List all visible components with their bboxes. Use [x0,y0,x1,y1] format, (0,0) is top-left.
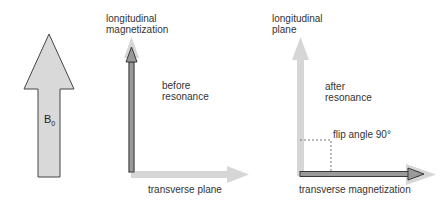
mri-magnetization-diagram [0,0,446,208]
before-transverse-axis [131,166,249,183]
after-x-axis-label: transverse magnetization [299,184,411,195]
before-x-axis-label: transverse plane [148,184,222,195]
flip-angle-indicator [300,140,331,171]
after-y-axis-label: longitudinal plane [272,13,323,35]
b0-label: B0 [44,113,55,127]
transverse-magnetization-vector [300,168,424,180]
flip-angle-label: flip angle 90° [333,129,391,140]
b0-field-arrow [24,34,74,177]
before-state-label: before resonance [162,80,209,102]
after-longitudinal-axis [292,37,309,176]
before-y-axis-label: longitudinal magnetization [106,13,168,35]
after-state-label: after resonance [325,81,372,103]
longitudinal-magnetization-vector [126,47,137,172]
